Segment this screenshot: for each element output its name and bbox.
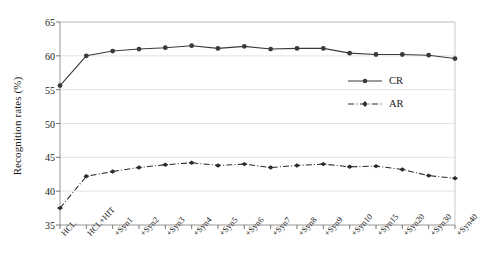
x-tick-label: HCL bbox=[59, 219, 78, 238]
x-tick-label: +Syn40 bbox=[454, 212, 479, 238]
x-tick-label: +Syn4 bbox=[191, 215, 214, 238]
x-tick-label: +Syn9 bbox=[322, 215, 345, 238]
x-tick-label: +Syn7 bbox=[270, 215, 293, 238]
x-tick-label: +Syn1 bbox=[112, 215, 135, 238]
legend-label-ar: AR bbox=[389, 98, 404, 109]
x-tick-label: +Syn30 bbox=[428, 212, 453, 238]
x-tick-label: +Syn8 bbox=[296, 215, 319, 238]
x-tick-label: +Syn10 bbox=[349, 212, 374, 238]
x-tick-label: +Syn5 bbox=[217, 215, 240, 238]
x-tick-label: +Syn15 bbox=[375, 212, 400, 238]
x-tick-label: +Syn2 bbox=[138, 215, 161, 238]
x-tick-label: +Syn20 bbox=[401, 212, 426, 238]
x-tick-label: +Syn3 bbox=[164, 215, 187, 238]
x-tick-label: HCL+HIT bbox=[85, 205, 117, 238]
legend-label-cr: CR bbox=[389, 75, 403, 86]
x-tick-label: +Syn6 bbox=[243, 215, 266, 238]
